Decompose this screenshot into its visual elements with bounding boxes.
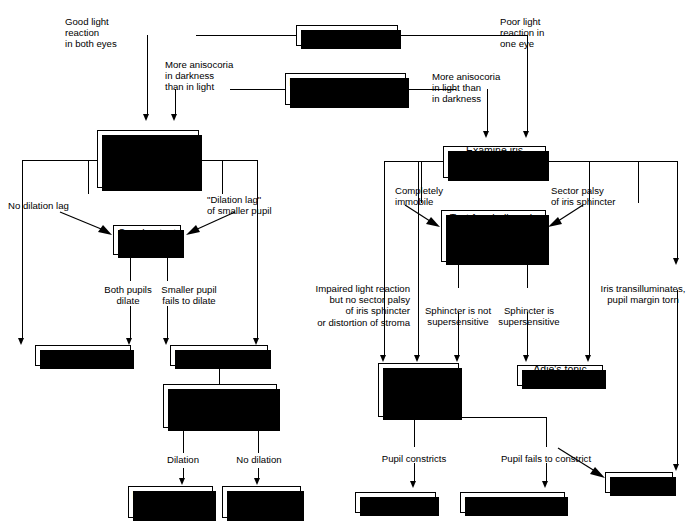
node-atropinic-mydriasis[interactable]: "Atropinic" mydriasis — [460, 492, 565, 513]
edge-aniso-dark-down — [175, 89, 176, 114]
edge-horner-to-ha — [219, 366, 220, 384]
edge-translum-to-damage — [677, 290, 678, 466]
edge-cocaine-left — [130, 255, 131, 281]
label-more-anisocoria-darkness: More anisocoria in darkness than in ligh… — [165, 59, 260, 93]
node-adies-tonic-pupil[interactable]: Adie's tonic pupil — [517, 365, 603, 386]
arrowhead-smaller-fails-dilate — [163, 338, 169, 345]
label-completely-immobile: Completely immobile — [395, 185, 469, 207]
node-cocaine-test[interactable]: Cocaine test 2%–10% — [113, 225, 181, 255]
third-nerve-palsy-text: IIIrd nerve palsy — [359, 497, 431, 509]
edge-anti-right-down — [546, 417, 547, 447]
edge-check-to-left — [196, 35, 297, 36]
arrow-sector-palsy-diagonal — [545, 205, 587, 231]
edge-chol-left — [458, 262, 459, 288]
edge-dl-left-down — [22, 160, 23, 340]
edge-iris-right-bus — [546, 161, 677, 162]
edge-both-dilate-down — [130, 306, 131, 338]
edge-constricts-down — [414, 463, 415, 483]
edge-dl-left-stub — [88, 160, 89, 194]
node-check-light-reaction[interactable]: Check light reaction — [296, 25, 398, 46]
node-anticholinergic-blockade-test[interactable]: Test for anticholinergic blockade with P… — [378, 363, 459, 417]
arrowhead-pupil-fails-constrict — [542, 481, 548, 488]
label-no-dilation: No dilation — [226, 454, 292, 465]
node-third-nerve-palsy[interactable]: IIIrd nerve palsy — [355, 492, 436, 513]
node-simple-anisocoria[interactable]: Simple anisocoria — [35, 345, 131, 366]
label-impaired-light-reaction: Impaired light reaction but no sector pa… — [298, 283, 410, 328]
arrowhead-not-supersensitive — [454, 355, 460, 362]
node-anisocoria-question[interactable]: Is there more anisocoria in darkness or … — [285, 73, 406, 105]
arrowhead-no-dilation-lag-simple — [18, 338, 24, 345]
arrowhead-supersensitive — [523, 355, 529, 362]
arrowhead-dilation — [179, 478, 185, 485]
edge-anti-left-down — [414, 417, 415, 447]
arrowhead-iris-left2 — [414, 355, 420, 362]
arrow-no-dilation-lag-diagonal — [60, 212, 116, 238]
arrowhead-translum-mid — [673, 258, 679, 265]
arrowhead-no-dilation — [254, 478, 260, 485]
label-sphincter-not-supersensitive: Sphincter is not supersensitive — [420, 305, 496, 327]
flowchart-canvas: Check light reaction Is there more aniso… — [0, 0, 690, 532]
label-good-light-reaction: Good light reaction in both eyes — [65, 16, 157, 50]
arrowhead-dilation-lag-horner — [253, 338, 259, 345]
arrowhead-poor-light — [523, 131, 529, 138]
edge-ha-dilation — [183, 428, 184, 453]
label-iris-transilluminates: Iris transilluminates, pupil margin torn — [596, 283, 690, 305]
edge-fails-dilate-down — [167, 306, 168, 338]
edge-dl-right-down — [257, 160, 258, 340]
arrowhead-sector-adie — [585, 355, 591, 362]
arrowhead-good-light — [143, 114, 149, 121]
node-examine-iris-sphincter[interactable]: Examine iris sphincter at slit lamp — [443, 146, 546, 178]
node-postganglionic-horners[interactable]: Postganglionic Horner's — [222, 486, 301, 518]
edge-fails-constrict-down — [546, 463, 547, 483]
arrowhead-pupil-constricts — [410, 481, 416, 488]
edge-dl-right-stub — [222, 160, 223, 194]
arrow-completely-immobile-diagonal — [405, 205, 445, 231]
arrowhead-both-pupils-dilate — [126, 338, 132, 345]
arrowhead-iris-damage — [673, 464, 679, 471]
label-pupil-constricts: Pupil constricts — [369, 453, 459, 464]
label-sector-palsy-iris-sphincter: Sector palsy of iris sphincter — [551, 185, 641, 207]
edge-iris-translum-down — [677, 161, 678, 258]
edge-chol-right — [527, 262, 528, 288]
label-no-dilation-lag: No dilation lag — [8, 200, 88, 211]
label-poor-light-reaction: Poor light reaction in one eye — [500, 16, 592, 50]
arrowhead-aniso-dark — [171, 114, 177, 121]
label-smaller-pupil-fails-to-dilate: Smaller pupil fails to dilate — [150, 284, 228, 306]
edge-anti-right-bus — [459, 417, 547, 418]
label-dilation-lag-smaller-pupil: "Dilation lag" of smaller pupil — [207, 194, 299, 216]
edge-iris-left-bus — [384, 161, 444, 162]
edge-cocaine-right — [167, 255, 168, 281]
node-cholinergic-supersensitivity-test[interactable]: Test for cholinergic supersensitivity wi… — [441, 210, 546, 262]
node-dilation-lag[interactable]: Look for "dilation lag" of the smaller p… — [97, 130, 199, 188]
node-preganglionic-horners[interactable]: Preganglionic or central Horner's — [128, 486, 213, 518]
node-horners-syndrome[interactable]: Horner's syndrome — [170, 345, 268, 366]
label-dilation: Dilation — [155, 454, 211, 465]
label-more-anisocoria-light: More anisocoria in light than in darknes… — [432, 71, 527, 105]
edge-dl-left — [22, 160, 98, 161]
label-pupil-fails-to-constrict: Pupil fails to constrict — [482, 453, 610, 464]
label-sphincter-supersensitive: Sphincter is supersensitive — [497, 305, 561, 327]
node-iris-damage[interactable]: Iris damage — [605, 472, 673, 493]
edge-dl-right — [199, 160, 257, 161]
arrowhead-impaired-light — [380, 355, 386, 362]
edge-ha-nodilation — [258, 428, 259, 453]
arrowhead-aniso-light — [483, 131, 489, 138]
node-hydroxyamphetamine-test[interactable]: 1% hydroxyamphetamine test — [163, 384, 277, 428]
